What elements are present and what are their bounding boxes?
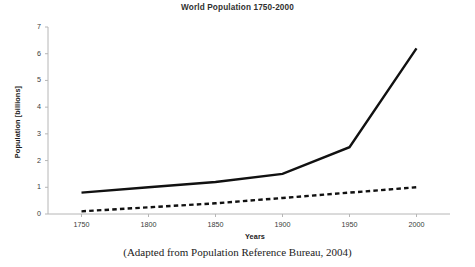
data-series	[82, 48, 417, 211]
figure-caption: (Adapted from Population Reference Burea…	[0, 246, 475, 258]
series-line	[82, 48, 417, 192]
series-line	[82, 187, 417, 211]
chart-canvas	[0, 0, 475, 240]
figure-container: World Population 1750-2000 Population [b…	[0, 0, 475, 267]
plot-area: Population [billions] Years 01234567 175…	[0, 0, 475, 240]
